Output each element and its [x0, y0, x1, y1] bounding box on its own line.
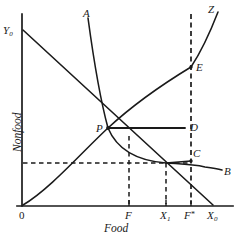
x-tick-x1-base: X	[160, 209, 167, 221]
point-c-marker	[189, 159, 192, 162]
x-tick-f-base: F	[125, 209, 132, 221]
curve-label-b: B	[224, 166, 231, 177]
budget-line	[23, 30, 213, 205]
x-tick-x0-sub: 0	[214, 215, 218, 223]
point-label-c: C	[193, 148, 201, 159]
x-tick-label-x1: X1	[160, 210, 170, 223]
y-intercept-sub: 0	[9, 30, 13, 38]
x-axis-title: Food	[104, 223, 128, 235]
x-tick-label-x0: X0	[207, 210, 217, 223]
x-tick-x1-sub: 1	[167, 215, 171, 223]
point-p-marker	[106, 126, 110, 130]
point-e-marker	[189, 65, 192, 68]
x-tick-fstar-sup: *	[191, 210, 195, 219]
curve-a-indifference	[88, 18, 222, 170]
diagram-canvas	[0, 0, 235, 238]
origin-label: 0	[19, 210, 25, 221]
curve-z-expansion	[23, 12, 218, 205]
x-tick-label-fstar: F*	[184, 210, 195, 221]
point-label-d: D	[190, 122, 198, 133]
economics-diagram: Y0 0 Nonfood Food F X1 F* X0 A Z E D C B…	[0, 0, 235, 238]
x-tick-fstar-base: F	[184, 209, 191, 221]
x-tick-label-f: F	[125, 210, 132, 221]
point-label-e: E	[196, 62, 203, 73]
x-tick-x0-base: X	[207, 209, 214, 221]
curve-label-a: A	[83, 8, 90, 19]
curve-label-z: Z	[208, 4, 214, 15]
y-intercept-label: Y0	[3, 25, 13, 38]
y-axis-title: Nonfood	[12, 112, 24, 152]
point-label-p: P	[96, 123, 103, 134]
